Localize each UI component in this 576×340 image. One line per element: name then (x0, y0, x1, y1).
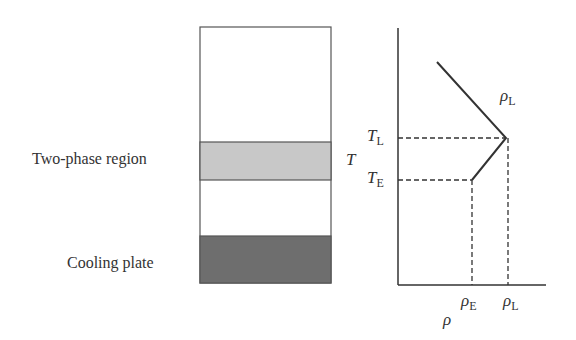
density-curve (437, 62, 506, 180)
cooling-plate-band (200, 236, 331, 283)
x-axis-label: ρ (443, 310, 451, 330)
two-phase-band (200, 142, 331, 180)
diagram-canvas (0, 0, 576, 340)
y-axis-label: T (346, 150, 355, 170)
rho-e-tick-label: ρE (461, 291, 477, 314)
t-e-tick-label: TE (367, 168, 384, 191)
t-l-tick-label: TL (367, 126, 384, 149)
cooling-plate-label: Cooling plate (67, 254, 154, 272)
curve-label: ρL (500, 86, 516, 109)
two-phase-label: Two-phase region (32, 150, 147, 168)
rho-l-tick-label: ρL (503, 291, 519, 314)
